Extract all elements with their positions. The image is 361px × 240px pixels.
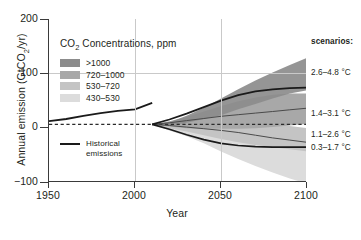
- y-axis-title-post: /yr): [15, 33, 27, 49]
- historical-emissions-line: [49, 103, 152, 121]
- x-axis-title: Year: [48, 207, 306, 219]
- x-tick-1950: [48, 182, 49, 188]
- x-tick-label-2050: 2050: [197, 189, 243, 201]
- legend-label-530-720: 530–720: [86, 81, 120, 91]
- legend-label-720-1000: 720–1000: [86, 70, 125, 80]
- legend-swatch-720-1000: [60, 71, 80, 79]
- y-tick-0: [40, 127, 48, 128]
- legend-label-gt-1000: >1000: [86, 58, 110, 68]
- legend-label-430-530: 430–530: [86, 93, 120, 103]
- y-tick-200: [40, 19, 48, 20]
- scenario-label-1-1-2-6: 1.1–2.6 °C: [311, 130, 351, 139]
- y-tick-100: [40, 73, 48, 74]
- historical-emissions-legend-label: Historicalemissions: [86, 139, 136, 158]
- y-axis-title: Annual emission (GtCO2/yr): [15, 15, 30, 185]
- x-tick-label-2000: 2000: [111, 189, 157, 201]
- legend-swatch-430-530: [60, 94, 80, 102]
- legend-item-530-720[interactable]: 530–720: [60, 81, 177, 91]
- historical-label-line2: emissions: [86, 149, 122, 158]
- x-tick-2050: [220, 182, 221, 188]
- historical-emissions-line-swatch: [60, 143, 80, 145]
- legend-item-720-1000[interactable]: 720–1000: [60, 70, 177, 80]
- x-tick-label-2100: 2100: [283, 189, 329, 201]
- concentration-legend: CO2 Concentrations, ppm >1000 720–1000 5…: [60, 38, 177, 104]
- historical-emissions-legend[interactable]: Historicalemissions: [60, 139, 136, 158]
- y-tick-neg100: [40, 182, 48, 183]
- historical-label-line1: Historical: [86, 139, 120, 148]
- scenarios-panel-title: scenarios:: [311, 37, 353, 46]
- scenario-label-2-6-4-8: 2.6–4.8 °C: [311, 68, 351, 77]
- x-tick-label-1950: 1950: [25, 189, 71, 201]
- scenario-label-0-3-1-7: 0.3–1.7 °C: [311, 143, 351, 152]
- emissions-scenarios-chart: 200 100 0 −100 1950 2000 2050 2100 Annua…: [0, 0, 361, 240]
- legend-swatch-530-720: [60, 82, 80, 90]
- gridline-2050: [221, 19, 222, 181]
- legend-item-430-530[interactable]: 430–530: [60, 93, 177, 103]
- legend-item-gt-1000[interactable]: >1000: [60, 58, 177, 68]
- legend-title-pre: CO: [60, 38, 75, 49]
- x-tick-2100: [306, 182, 307, 188]
- concentration-legend-title: CO2 Concentrations, ppm: [60, 38, 177, 52]
- legend-title-post: Concentrations, ppm: [79, 38, 176, 49]
- scenario-label-1-4-3-1: 1.4–3.1 °C: [311, 109, 351, 118]
- x-tick-2000: [134, 182, 135, 188]
- y-axis-title-pre: Annual emission (GtCO: [15, 53, 27, 165]
- legend-swatch-gt-1000: [60, 59, 80, 67]
- y-axis-title-subscript: 2: [22, 49, 31, 53]
